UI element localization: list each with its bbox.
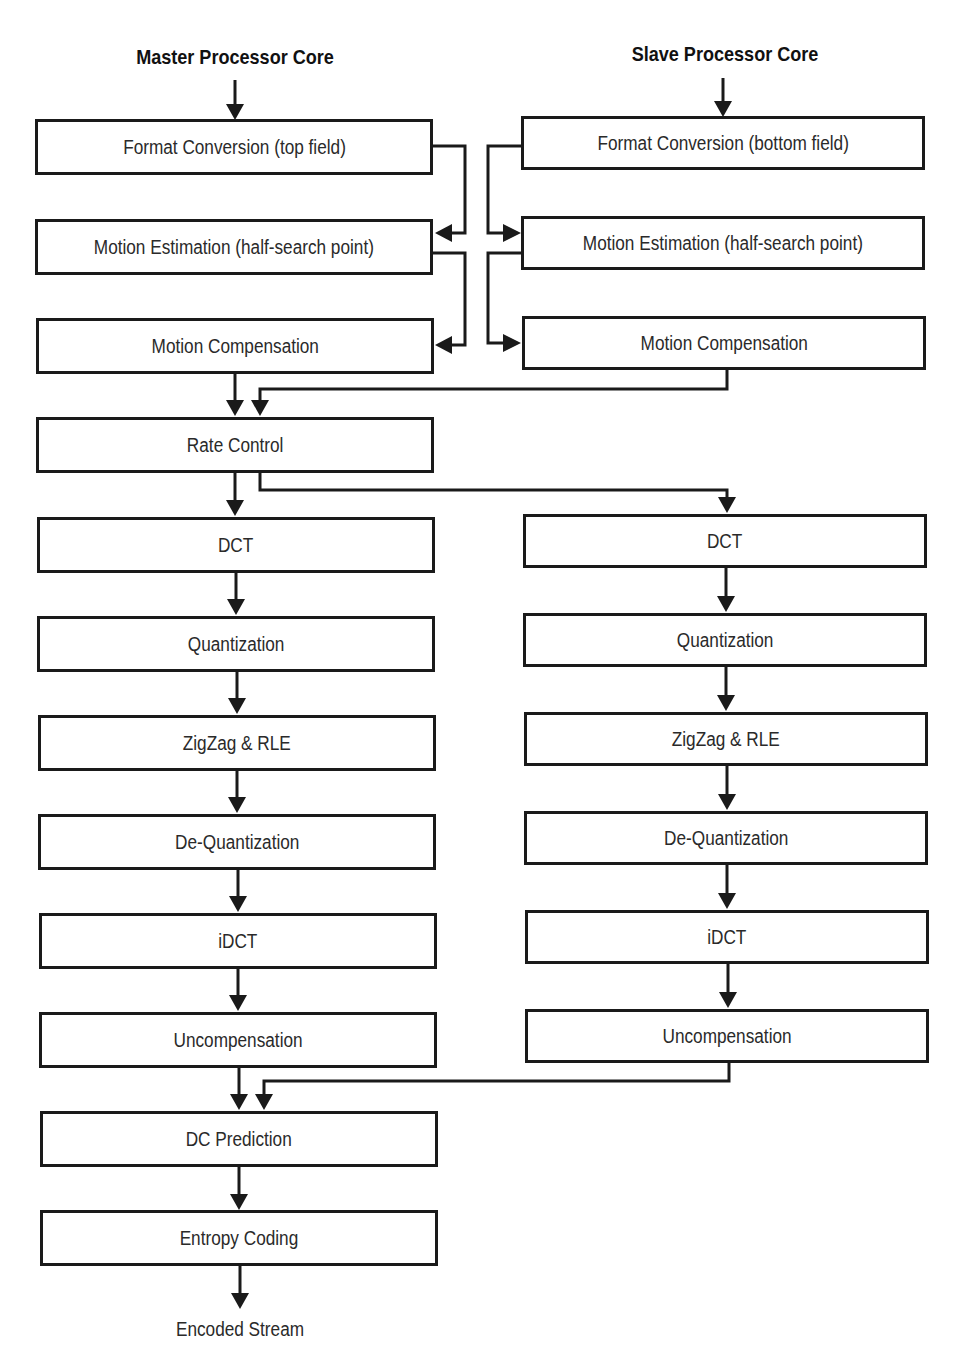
slave-uncompensation: Uncompensation <box>525 1009 929 1063</box>
box-label: Format Conversion (bottom field) <box>597 132 848 155</box>
box-label: Uncompensation <box>173 1029 302 1052</box>
slave-quantization: Quantization <box>523 613 927 667</box>
box-label: Motion Estimation (half-search point) <box>583 232 863 255</box>
slave-motion-estimation: Motion Estimation (half-search point) <box>521 216 925 270</box>
box-label: DCT <box>707 530 742 553</box>
box-label: DCT <box>218 534 253 557</box>
box-label: ZigZag & RLE <box>672 728 780 751</box>
slave-de-quantization: De-Quantization <box>524 811 928 865</box>
slave-core-title: Slave Processor Core <box>596 42 854 66</box>
master-zigzag-rle: ZigZag & RLE <box>38 715 436 771</box>
box-label: De-Quantization <box>664 827 788 850</box>
box-label: iDCT <box>218 930 257 953</box>
dc-prediction: DC Prediction <box>40 1111 438 1167</box>
box-label: De-Quantization <box>175 831 299 854</box>
box-label: Uncompensation <box>662 1025 791 1048</box>
encoded-stream-label: Encoded Stream <box>111 1318 369 1341</box>
rate-control: Rate Control <box>36 417 434 473</box>
slave-motion-compensation: Motion Compensation <box>522 316 926 370</box>
master-uncompensation: Uncompensation <box>39 1012 437 1068</box>
master-dct: DCT <box>37 517 435 573</box>
box-label: Format Conversion (top field) <box>123 136 346 159</box>
box-label: ZigZag & RLE <box>183 732 291 755</box>
master-format-conversion: Format Conversion (top field) <box>35 119 433 175</box>
box-label: Motion Compensation <box>151 335 318 358</box>
slave-idct: iDCT <box>525 910 929 964</box>
box-label: Rate Control <box>187 434 284 457</box>
master-motion-compensation: Motion Compensation <box>36 318 434 374</box>
entropy-coding: Entropy Coding <box>40 1210 438 1266</box>
flow-diagram: Master Processor Core Slave Processor Co… <box>0 0 960 1368</box>
master-motion-estimation: Motion Estimation (half-search point) <box>35 219 433 275</box>
box-label: DC Prediction <box>186 1128 292 1151</box>
slave-zigzag-rle: ZigZag & RLE <box>524 712 928 766</box>
box-label: Quantization <box>188 633 285 656</box>
box-label: Quantization <box>677 629 774 652</box>
slave-dct: DCT <box>523 514 927 568</box>
slave-format-conversion: Format Conversion (bottom field) <box>521 116 925 170</box>
box-label: Motion Estimation (half-search point) <box>94 236 374 259</box>
master-quantization: Quantization <box>37 616 435 672</box>
master-core-title: Master Processor Core <box>106 45 364 69</box>
master-de-quantization: De-Quantization <box>38 814 436 870</box>
box-label: Motion Compensation <box>640 332 807 355</box>
box-label: Entropy Coding <box>180 1227 299 1250</box>
box-label: iDCT <box>707 926 746 949</box>
master-idct: iDCT <box>39 913 437 969</box>
